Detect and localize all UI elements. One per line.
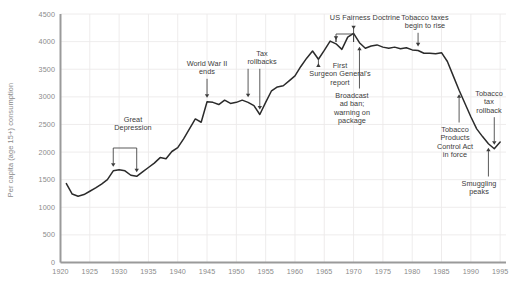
x-tick-label: 1975: [375, 267, 391, 276]
x-tick-label: 1930: [111, 267, 127, 276]
x-tick-label: 1955: [257, 267, 273, 276]
x-axis-tick-labels: 1920192519301935194019451950195519601965…: [52, 267, 508, 276]
x-tick-label: 1970: [345, 267, 361, 276]
y-axis-tick-labels: 050010001500200025003000350040004500: [39, 10, 55, 268]
smuggling-peaks-arrowhead: [486, 148, 490, 152]
gridlines: [61, 14, 507, 263]
world-war-ii-ends-label: ends: [199, 67, 215, 76]
cigarette-consumption-chart: 050010001500200025003000350040004500 192…: [0, 0, 517, 298]
y-tick-label: 2500: [39, 120, 55, 129]
great-depression-b-arrowhead: [135, 169, 139, 173]
smuggling-peaks-label: peaks: [469, 187, 489, 196]
x-tick-label: 1985: [433, 267, 449, 276]
y-tick-label: 4500: [39, 10, 55, 19]
chart-svg: 050010001500200025003000350040004500 192…: [0, 0, 517, 298]
great-depression-a-arrowhead: [111, 163, 115, 167]
tobacco-tax-rollback-arrowhead: [492, 141, 496, 145]
tobacco-tax-rollback-label: rollback: [476, 106, 502, 115]
y-tick-label: 0: [51, 258, 55, 267]
x-tick-label: 1960: [287, 267, 303, 276]
y-tick-label: 500: [43, 230, 55, 239]
us-fairness-doctrine-label: US Fairness Doctrine: [330, 13, 400, 22]
y-tick-label: 4000: [39, 37, 55, 46]
x-tick-label: 1935: [140, 267, 156, 276]
first-surgeon-generals-report-arrowhead: [316, 63, 320, 67]
y-tick-label: 1500: [39, 175, 55, 184]
x-tick-label: 1945: [199, 267, 215, 276]
x-tick-label: 1940: [170, 267, 186, 276]
y-tick-label: 2000: [39, 148, 55, 157]
y-tick-label: 3500: [39, 65, 55, 74]
y-tick-label: 1000: [39, 203, 55, 212]
broadcast-ad-ban-label: package: [338, 116, 366, 125]
us-fairness-doctrine-b-arrowhead: [351, 26, 355, 30]
x-tick-label: 1995: [492, 267, 508, 276]
us-fairness-doctrine-a-arrowhead: [334, 36, 338, 40]
tax-rollbacks-b-arrowhead: [258, 106, 262, 110]
x-tick-label: 1990: [463, 267, 479, 276]
tobacco-products-control-act-label: in force: [443, 150, 467, 159]
axis-spines: [61, 14, 507, 263]
tobacco-taxes-begin-to-rise-label: begin to rise: [405, 21, 445, 30]
annotation-layer: GreatDepressionWorld War IIendsTaxrollba…: [111, 13, 503, 196]
tax-rollbacks-label: rollbacks: [247, 57, 277, 66]
x-tick-label: 1925: [82, 267, 98, 276]
y-axis-title: Per capita (age 15+) consumption: [6, 83, 15, 197]
great-depression-label: Depression: [114, 123, 151, 132]
x-tick-label: 1920: [52, 267, 68, 276]
x-tick-label: 1965: [316, 267, 332, 276]
broadcast-ad-ban-arrowhead: [357, 47, 361, 51]
x-tick-label: 1980: [404, 267, 420, 276]
tobacco-taxes-begin-to-rise-arrowhead: [416, 43, 420, 47]
y-tick-label: 3000: [39, 92, 55, 101]
x-tick-label: 1950: [228, 267, 244, 276]
first-surgeon-generals-report-label: report: [330, 78, 349, 87]
